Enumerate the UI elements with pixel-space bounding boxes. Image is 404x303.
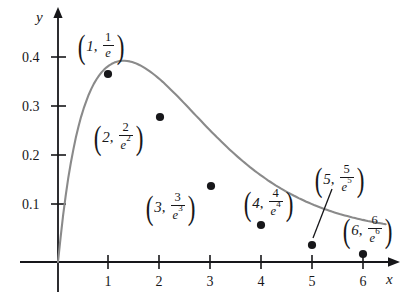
annotation-1-numerator: 1 bbox=[103, 31, 113, 44]
point-annotation-3: ( 3 , 3 e3 ) bbox=[144, 192, 197, 223]
x-tick-label-5: 5 bbox=[309, 274, 316, 289]
data-point-3 bbox=[207, 182, 215, 190]
x-tick-label-4: 4 bbox=[258, 274, 265, 289]
annotation-2-exponent: 2 bbox=[126, 133, 131, 143]
y-tick-label-0.2: 0.2 bbox=[22, 148, 40, 163]
data-point-5 bbox=[308, 241, 316, 249]
point-annotation-5: ( 5 , 5 e5 ) bbox=[313, 164, 366, 195]
annotation-5-comma: , bbox=[331, 172, 335, 187]
annotation-3-exponent: 3 bbox=[178, 203, 183, 213]
data-point-6 bbox=[359, 250, 367, 258]
x-tick-label-6: 6 bbox=[360, 274, 367, 289]
function-curve bbox=[58, 61, 386, 262]
annotation-1-comma: , bbox=[94, 39, 98, 54]
annotation-2-fraction: 2 e2 bbox=[119, 121, 133, 152]
annotation-4-numerator: 4 bbox=[270, 187, 280, 200]
annotation-5-denominator: e5 bbox=[340, 179, 354, 194]
annotation-3-comma: , bbox=[162, 200, 166, 215]
y-tick-label-0.1: 0.1 bbox=[22, 197, 40, 212]
annotation-6-exponent: 6 bbox=[375, 226, 380, 236]
data-point-4 bbox=[257, 221, 265, 229]
annotation-5-exponent: 5 bbox=[347, 175, 352, 185]
annotation-1-denominator: e bbox=[103, 47, 113, 60]
annotation-5-x: 5 bbox=[323, 172, 331, 187]
annotation-5-fraction: 5 e5 bbox=[340, 163, 354, 194]
annotation-6-fraction: 6 e6 bbox=[368, 214, 382, 245]
point-annotation-1: ( 1 , 1 e ) bbox=[76, 32, 126, 61]
annotation-4-comma: , bbox=[260, 196, 264, 211]
annotation-1-x: 1 bbox=[86, 39, 94, 54]
data-point-2 bbox=[156, 113, 164, 121]
annotation-4-x: 4 bbox=[252, 196, 260, 211]
data-point-1 bbox=[104, 70, 112, 78]
annotation-2-comma: , bbox=[110, 130, 114, 145]
annotation-3-fraction: 3 e3 bbox=[171, 191, 185, 222]
annotation-3-denominator: e3 bbox=[171, 207, 185, 222]
annotation-4-exponent: 4 bbox=[276, 199, 281, 209]
y-tick-label-0.4: 0.4 bbox=[22, 50, 40, 65]
annotation-4-fraction: 4 e4 bbox=[269, 187, 283, 218]
annotation-1-fraction: 1 e bbox=[103, 31, 114, 60]
x-tick-label-2: 2 bbox=[156, 274, 163, 289]
annotation-6-x: 6 bbox=[351, 223, 359, 238]
point-annotation-6: ( 6 , 6 e6 ) bbox=[341, 215, 394, 246]
annotation-2-x: 2 bbox=[102, 130, 110, 145]
x-tick-label-1: 1 bbox=[105, 274, 112, 289]
annotation-6-comma: , bbox=[359, 223, 363, 238]
annotation-3-x: 3 bbox=[154, 200, 162, 215]
y-tick-label-0.3: 0.3 bbox=[22, 99, 40, 114]
y-axis-label: y bbox=[34, 9, 43, 25]
annotation-6-denominator: e6 bbox=[368, 230, 382, 245]
annotation-6-numerator: 6 bbox=[369, 214, 379, 227]
annotation-5-numerator: 5 bbox=[341, 163, 351, 176]
annotation-2-numerator: 2 bbox=[120, 121, 130, 134]
annotation-4-denominator: e4 bbox=[269, 203, 283, 218]
chart-canvas: y x 0.4 0.3 0.2 0.1 1 2 3 4 5 6 bbox=[0, 0, 404, 303]
annotation-3-numerator: 3 bbox=[172, 191, 182, 204]
x-tick-label-3: 3 bbox=[207, 274, 214, 289]
annotation-2-denominator: e2 bbox=[119, 137, 133, 152]
y-axis bbox=[53, 7, 62, 292]
point-annotation-4: ( 4 , 4 e4 ) bbox=[242, 188, 295, 219]
point-annotation-2: ( 2 , 2 e2 ) bbox=[92, 122, 145, 153]
x-axis-label: x bbox=[385, 271, 393, 287]
plot-figure: y x 0.4 0.3 0.2 0.1 1 2 3 4 5 6 ( 1 , 1 … bbox=[0, 0, 404, 303]
